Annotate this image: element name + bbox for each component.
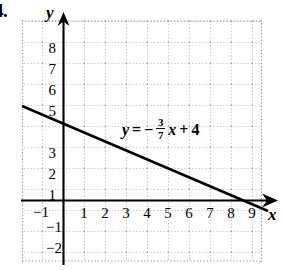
x-tick-label-6: 6	[181, 206, 197, 221]
graph-figure: 4. 8 7 6	[0, 0, 284, 270]
x-tick-label-4: 4	[139, 206, 155, 221]
x-tick-label-1: 1	[76, 206, 92, 221]
y-tick-label-7: 7	[40, 62, 56, 77]
x-tick-label-5: 5	[160, 206, 176, 221]
equation-plus: +	[179, 121, 188, 139]
fraction-denominator: 7	[157, 130, 165, 140]
x-tick-label-3: 3	[118, 206, 134, 221]
equation-equals: =	[132, 121, 141, 139]
y-tick-label-5: 5	[40, 104, 56, 119]
x-tick-label-2: 2	[97, 206, 113, 221]
y-axis-label: y	[46, 4, 54, 21]
y-tick-label-1: 1	[40, 188, 56, 203]
equation-lhs: y	[122, 121, 129, 139]
equation-variable: x	[168, 121, 176, 139]
y-tick-label-3: 3	[40, 146, 56, 161]
y-tick-label-6: 6	[40, 83, 56, 98]
y-tick-label-2: 2	[40, 167, 56, 182]
y-tick-label-neg2: −2	[44, 241, 62, 256]
x-tick-label-neg1: −1	[30, 205, 52, 220]
equation-fraction: 3 7	[156, 117, 165, 140]
x-tick-label-9: 9	[244, 206, 260, 221]
y-tick-label-8: 8	[40, 41, 56, 56]
y-axis-arrow-icon	[58, 12, 70, 26]
equation-intercept: 4	[191, 121, 199, 139]
equation-minus: −	[144, 121, 153, 139]
x-tick-label-7: 7	[202, 206, 218, 221]
equation-annotation: y = − 3 7 x + 4	[122, 118, 199, 141]
x-axis-label: x	[268, 206, 277, 223]
x-tick-label-8: 8	[223, 206, 239, 221]
y-tick-label-neg1: −1	[44, 220, 62, 235]
fraction-numerator: 3	[157, 117, 165, 127]
